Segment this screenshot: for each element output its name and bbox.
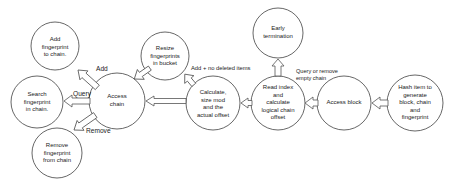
- edge-label-remove: Remove: [86, 127, 111, 134]
- node-label-hash-item: Hash item to generate block, chain and f…: [398, 84, 432, 122]
- node-label-read-index: Read index and calculate logical chain o…: [261, 84, 294, 122]
- node-label-remove-fingerprint: Remove fingerprint from chain: [43, 142, 71, 165]
- arrow-hash-to-access-block: [372, 97, 388, 109]
- edge-label-add: Add: [96, 65, 108, 72]
- arrow-access-block-to-read-index: [305, 97, 318, 109]
- edge-label-query-or-remove: Query or remove empty chain: [296, 68, 338, 81]
- edge-label-add-no-deleted: Add + no deleted items: [191, 65, 250, 71]
- arrow-read-index-to-early-termination: [272, 59, 284, 76]
- edge-label-query: Query: [73, 90, 91, 97]
- node-label-access-chain: Access chain: [107, 93, 126, 108]
- node-label-access-block: Access block: [326, 99, 361, 107]
- node-label-calculate: Calculate, size mod and the actual offse…: [197, 89, 229, 119]
- node-label-add-fingerprint: Add fingerprint to chain.: [42, 36, 69, 59]
- node-label-search-fingerprint: Search fingerprint in chain.: [24, 91, 51, 114]
- node-label-early-termination: Early termination: [263, 25, 293, 40]
- arrow-read-index-to-calculate: [241, 98, 252, 108]
- node-label-resize: Resize fingerprints in bucket: [150, 45, 180, 68]
- arrow-calculate-to-access-chain: [146, 96, 186, 106]
